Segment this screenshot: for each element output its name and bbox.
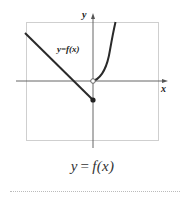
open-endpoint-circle [91, 79, 96, 84]
caption-equals: = [78, 158, 93, 174]
y-axis-arrow-icon [91, 13, 95, 19]
dotted-divider [10, 191, 180, 192]
curve-label: y=f(x) [56, 44, 80, 54]
y-axis-label: y [81, 9, 87, 20]
function-caption: y=f(x) [0, 158, 185, 175]
caption-rhs: f(x) [92, 158, 114, 174]
x-axis-label: x [160, 83, 166, 94]
curve-piece [95, 22, 116, 81]
filled-endpoint-dot [90, 97, 95, 102]
caption-lhs: y [71, 158, 78, 174]
function-graph: y x y=f(x) [0, 0, 185, 155]
